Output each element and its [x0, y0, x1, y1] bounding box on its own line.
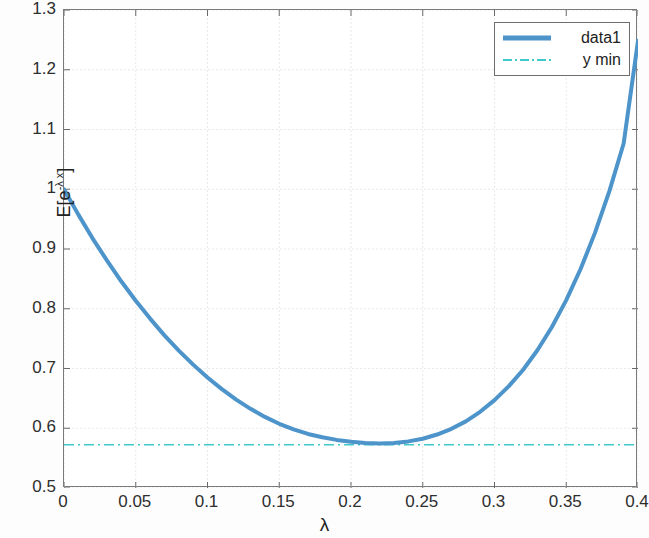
y-tick-label: 0.5 — [0, 477, 56, 497]
y-tick-label: 1.2 — [0, 59, 56, 79]
legend-label-ymin: y min — [553, 51, 623, 69]
y-tick-label: 1.1 — [0, 119, 56, 139]
legend: data1 y min — [494, 22, 630, 76]
y-tick-label: 0.9 — [0, 238, 56, 258]
y-tick-label: 0.6 — [0, 417, 56, 437]
x-tick-label: 0.4 — [625, 492, 649, 512]
chart-figure: 0.50.60.70.80.911.11.21.3 00.050.10.150.… — [0, 0, 649, 538]
gridlines — [64, 10, 638, 488]
y-tick-label: 1.3 — [0, 0, 56, 19]
x-tick-label: 0.05 — [118, 492, 151, 512]
x-tick-label: 0.1 — [195, 492, 219, 512]
y-axis-label: E[e-λ x] — [54, 123, 75, 263]
legend-entry-data1: data1 — [501, 27, 623, 49]
y-tick-label: 0.8 — [0, 298, 56, 318]
x-axis-label: λ — [0, 514, 649, 536]
legend-dashdot-line-icon — [501, 53, 553, 67]
x-tick-label: 0.15 — [262, 492, 295, 512]
x-tick-label: 0 — [58, 492, 67, 512]
tick-marks — [64, 10, 638, 488]
y-tick-label: 1 — [0, 178, 56, 198]
legend-label-data1: data1 — [553, 29, 623, 47]
x-tick-label: 0.3 — [482, 492, 506, 512]
x-tick-label: 0.2 — [338, 492, 362, 512]
plot-area — [63, 9, 637, 487]
legend-entry-ymin: y min — [501, 49, 623, 71]
legend-solid-line-icon — [501, 31, 553, 45]
plot-canvas — [64, 10, 638, 488]
y-tick-label: 0.7 — [0, 358, 56, 378]
x-tick-label: 0.35 — [549, 492, 582, 512]
x-tick-label: 0.25 — [405, 492, 438, 512]
